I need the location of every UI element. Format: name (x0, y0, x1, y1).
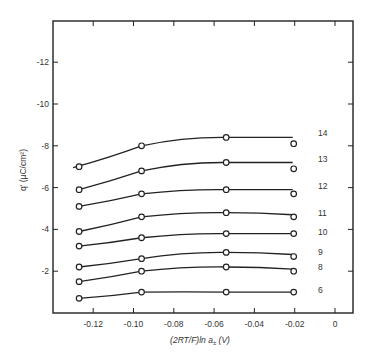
x-tick-label: -0.08 (164, 319, 184, 329)
series-label-10: 10 (318, 227, 328, 237)
data-point (291, 166, 297, 172)
data-point (139, 214, 145, 220)
x-tick-label: -0.06 (204, 319, 224, 329)
series-label-13: 13 (318, 154, 328, 164)
data-point (223, 264, 229, 270)
series-label-6: 6 (318, 285, 323, 295)
data-point (291, 191, 297, 197)
data-point (291, 141, 297, 147)
x-tick-label: -0.02 (285, 319, 305, 329)
data-point (139, 191, 145, 197)
data-point (291, 231, 297, 237)
data-point (291, 268, 297, 274)
x-tick-label: 0 (333, 319, 338, 329)
data-point (76, 296, 82, 302)
series-label-12: 12 (318, 181, 328, 191)
data-series (73, 135, 296, 302)
x-axis-title: (2RT/F)ln a± (V) (170, 335, 230, 346)
series-curve-6 (79, 292, 293, 299)
data-point (223, 187, 229, 193)
data-point (223, 250, 229, 256)
y-axis-title: q' (µC/cm²) (18, 149, 28, 191)
data-point (76, 243, 82, 249)
data-point (139, 168, 145, 174)
data-point (76, 264, 82, 270)
data-point (291, 254, 297, 260)
y-tick-label: -4 (41, 224, 49, 234)
data-point (139, 289, 145, 295)
data-point (223, 289, 229, 295)
data-point (76, 187, 82, 193)
data-point (223, 135, 229, 141)
series-label-9: 9 (318, 247, 323, 257)
series-curve-10 (79, 234, 293, 247)
data-point (139, 143, 145, 149)
chart: -0.12-0.10-0.08-0.06-0.04-0.020 -2-4-6-8… (0, 0, 372, 361)
y-tick-label: -8 (41, 141, 49, 151)
series-label-11: 11 (318, 208, 327, 218)
series-curve-8 (79, 267, 293, 282)
data-point (139, 256, 145, 262)
series-label-14: 14 (318, 128, 328, 138)
data-point (291, 289, 297, 295)
y-tick-label: -12 (37, 57, 50, 67)
data-point (76, 204, 82, 210)
x-tick-label: -0.04 (245, 319, 265, 329)
data-point (139, 235, 145, 241)
data-point (76, 279, 82, 285)
y-tick-label: -2 (41, 266, 49, 276)
data-point (139, 268, 145, 274)
y-axis: -2-4-6-8-10-12 (37, 57, 353, 276)
data-point (76, 229, 82, 235)
x-tick-label: -0.12 (84, 319, 104, 329)
series-curve-13 (79, 162, 293, 189)
data-point (223, 210, 229, 216)
data-point (223, 231, 229, 237)
series-label-8: 8 (318, 262, 323, 272)
series-curve-9 (79, 252, 293, 267)
x-tick-label: -0.10 (124, 319, 144, 329)
series-labels: 1413121110986 (318, 128, 328, 295)
data-point (223, 160, 229, 166)
series-curve-12 (79, 190, 293, 207)
data-point (76, 164, 82, 170)
x-axis: -0.12-0.10-0.08-0.06-0.04-0.020 (84, 21, 338, 329)
y-tick-label: -6 (41, 183, 49, 193)
series-curve-11 (79, 213, 293, 232)
data-point (291, 214, 297, 220)
y-tick-label: -10 (37, 99, 50, 109)
plot-frame (53, 21, 353, 313)
